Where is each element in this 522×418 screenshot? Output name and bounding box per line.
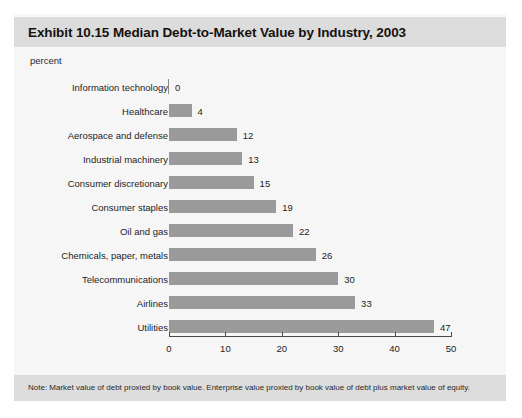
- bar-track: 15: [169, 176, 499, 189]
- bar-category-label: Information technology: [72, 82, 168, 93]
- x-axis-tick-label: 50: [446, 343, 457, 354]
- bar-row: Aerospace and defense12: [14, 125, 506, 149]
- bar-row: Consumer discretionary15: [14, 173, 506, 197]
- x-axis-tick: [338, 332, 339, 337]
- bar-track: 19: [169, 200, 499, 213]
- bar-track: 0: [169, 80, 499, 93]
- bar-category-label: Industrial machinery: [83, 154, 168, 165]
- bar: [169, 248, 316, 261]
- bar-category-label: Aerospace and defense: [68, 130, 168, 141]
- x-axis-tick-label: 10: [220, 343, 231, 354]
- bar-value-label: 4: [198, 106, 203, 117]
- bar-row: Industrial machinery13: [14, 149, 506, 173]
- bar: [169, 104, 192, 117]
- chart-plot-area: percent Information technology0Healthcar…: [14, 47, 506, 367]
- bar-value-label: 19: [282, 202, 293, 213]
- x-axis-tick: [225, 332, 226, 337]
- bar-value-label: 0: [175, 82, 180, 93]
- bar: [169, 128, 237, 141]
- bar-category-label: Consumer staples: [91, 202, 168, 213]
- bar-track: 47: [169, 320, 499, 333]
- exhibit-card: Exhibit 10.15 Median Debt-to-Market Valu…: [14, 14, 506, 401]
- bar-category-label: Telecommunications: [82, 274, 168, 285]
- bar-value-label: 30: [344, 274, 355, 285]
- bar-row: Chemicals, paper, metals26: [14, 245, 506, 269]
- bar: [169, 272, 338, 285]
- x-axis-tick-label: 30: [333, 343, 344, 354]
- bar-track: 4: [169, 104, 499, 117]
- page-title: Exhibit 10.15 Median Debt-to-Market Valu…: [28, 25, 406, 40]
- bar-track: 22: [169, 224, 499, 237]
- bar-category-label: Healthcare: [122, 106, 168, 117]
- x-axis-tick: [395, 332, 396, 337]
- bar: [169, 152, 242, 165]
- bar-track: 26: [169, 248, 499, 261]
- bar-value-label: 33: [361, 298, 372, 309]
- bar-track: 30: [169, 272, 499, 285]
- bar: [169, 296, 355, 309]
- bar-value-label: 13: [248, 154, 259, 165]
- bar: [169, 224, 293, 237]
- zero-marker: [168, 79, 169, 94]
- axis-unit-label: percent: [30, 55, 62, 66]
- bar-value-label: 22: [299, 226, 310, 237]
- bar-row: Telecommunications30: [14, 269, 506, 293]
- footnote: Note: Market value of debt proxied by bo…: [28, 383, 470, 392]
- bar: [169, 200, 276, 213]
- bar-category-label: Utilities: [137, 322, 168, 333]
- bar-value-label: 47: [440, 322, 451, 333]
- bar-row: Information technology0: [14, 77, 506, 101]
- bar-value-label: 15: [260, 178, 271, 189]
- x-axis-line: [169, 336, 451, 337]
- bar: [169, 176, 254, 189]
- bar-value-label: 26: [322, 250, 333, 261]
- bar-row: Healthcare4: [14, 101, 506, 125]
- bar-row: Airlines33: [14, 293, 506, 317]
- x-axis-tick-label: 0: [166, 343, 171, 354]
- bar-rows: Information technology0Healthcare4Aerosp…: [14, 77, 506, 341]
- title-band: Exhibit 10.15 Median Debt-to-Market Valu…: [14, 17, 506, 47]
- bar-track: 33: [169, 296, 499, 309]
- x-axis-tick: [451, 332, 452, 337]
- bar-value-label: 12: [243, 130, 254, 141]
- x-axis-tick: [282, 332, 283, 337]
- bar-category-label: Oil and gas: [120, 226, 168, 237]
- bar-row: Consumer staples19: [14, 197, 506, 221]
- x-axis-tick-label: 20: [277, 343, 288, 354]
- bar-row: Oil and gas22: [14, 221, 506, 245]
- bar-category-label: Airlines: [137, 298, 168, 309]
- x-axis: 01020304050: [169, 336, 499, 362]
- x-axis-tick-label: 40: [389, 343, 400, 354]
- note-band: Note: Market value of debt proxied by bo…: [14, 375, 506, 401]
- bar-category-label: Chemicals, paper, metals: [61, 250, 168, 261]
- bar-track: 13: [169, 152, 499, 165]
- x-axis-tick: [169, 332, 170, 337]
- bar-track: 12: [169, 128, 499, 141]
- bar-category-label: Consumer discretionary: [68, 178, 168, 189]
